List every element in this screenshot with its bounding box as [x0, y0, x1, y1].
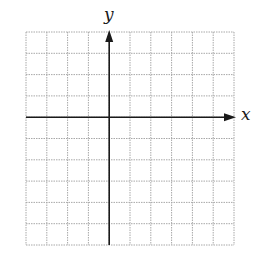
- grid-lines: [26, 32, 234, 245]
- x-axis-label: x: [241, 106, 251, 123]
- grid-canvas: [0, 0, 266, 262]
- axes: [26, 30, 236, 245]
- coordinate-plane: x y: [0, 0, 266, 262]
- y-axis-label: y: [104, 6, 114, 23]
